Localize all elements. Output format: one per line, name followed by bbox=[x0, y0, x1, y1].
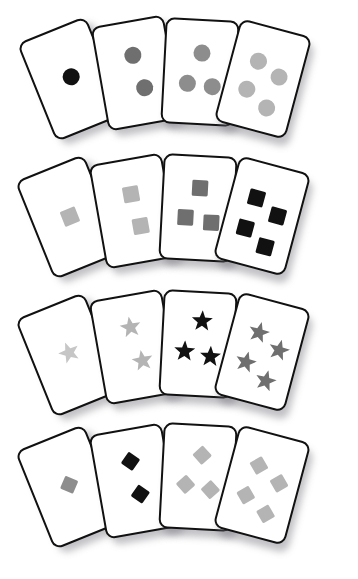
star-icon bbox=[190, 309, 213, 332]
circle-icon bbox=[257, 97, 278, 118]
star-icon bbox=[252, 367, 279, 394]
star-icon bbox=[245, 319, 272, 346]
square-icon bbox=[192, 179, 209, 196]
card-row-square bbox=[0, 142, 358, 302]
star-icon bbox=[118, 314, 143, 339]
circle-icon bbox=[204, 78, 222, 96]
circle-icon bbox=[60, 66, 82, 88]
circle-icon bbox=[134, 78, 154, 98]
star-icon bbox=[232, 349, 259, 376]
diamond-icon bbox=[192, 445, 212, 465]
diamond-icon bbox=[200, 480, 220, 500]
star-icon bbox=[55, 338, 84, 367]
diamond-icon bbox=[131, 485, 150, 504]
circle-icon bbox=[179, 75, 197, 93]
star-icon bbox=[129, 348, 154, 373]
square-icon bbox=[132, 217, 151, 236]
circle-icon bbox=[248, 50, 269, 71]
circle-icon bbox=[193, 44, 211, 62]
square-icon bbox=[235, 219, 255, 239]
square-icon bbox=[60, 206, 81, 227]
square-icon bbox=[268, 206, 288, 226]
cards-illustration bbox=[0, 0, 358, 579]
square-icon bbox=[122, 185, 141, 204]
circle-icon bbox=[237, 79, 258, 100]
square-icon bbox=[203, 215, 220, 232]
square-icon bbox=[247, 188, 267, 208]
diamond-icon bbox=[121, 451, 140, 470]
star-icon bbox=[198, 345, 221, 368]
square-icon bbox=[177, 209, 194, 226]
diamond-icon bbox=[249, 456, 268, 475]
circle-icon bbox=[269, 67, 290, 88]
diamond-icon bbox=[270, 474, 289, 493]
diamond-icon bbox=[236, 486, 255, 505]
diamond-icon bbox=[256, 504, 275, 523]
square-icon bbox=[256, 237, 276, 257]
card-row-circle bbox=[0, 4, 358, 164]
star-icon bbox=[266, 337, 293, 364]
diamond-icon bbox=[176, 475, 196, 495]
diamond-icon bbox=[60, 475, 78, 493]
star-icon bbox=[173, 340, 196, 363]
circle-icon bbox=[123, 45, 143, 65]
card-row-diamond bbox=[0, 410, 358, 570]
